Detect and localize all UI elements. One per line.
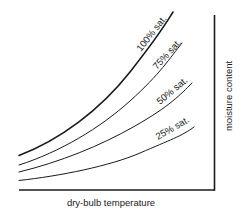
label-100-sat: 100% sat. [134,13,169,53]
x-axis-label: dry-bulb temperature [67,197,155,208]
psychrometric-chart: 100% sat. 75% sat. 50% sat. 25% sat. dry… [0,0,243,218]
label-25-sat: 25% sat. [154,114,192,142]
y-axis-label: moisture content [223,61,234,132]
label-75-sat: 75% sat. [150,37,183,72]
